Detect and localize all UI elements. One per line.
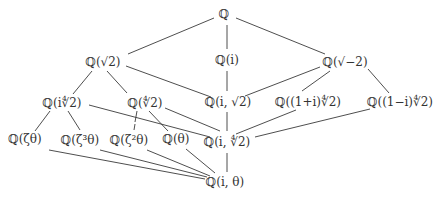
- field-node-Qi42: ℚ(i∜2): [43, 97, 82, 109]
- field-node-Qi42b: ℚ(i, ∜2): [204, 136, 251, 148]
- edge-line: [35, 111, 50, 131]
- edge-line: [245, 67, 320, 96]
- field-node-Q42: ℚ(∜2): [127, 97, 162, 109]
- field-node-Q1pi: ℚ((1+i)∜2): [275, 96, 341, 108]
- edge-line: [149, 111, 168, 131]
- edge-line: [100, 150, 207, 177]
- field-node-Qzt: ℚ(ζθ): [8, 133, 42, 145]
- edge-line: [302, 71, 330, 91]
- edge-line: [236, 110, 296, 134]
- edge-line: [255, 109, 370, 137]
- edge-line: [236, 18, 325, 54]
- field-node-Qz3t: ℚ(ζ³θ): [61, 134, 99, 146]
- edge-line: [135, 111, 137, 122]
- edge-line: [134, 124, 135, 130]
- edge-line: [147, 150, 210, 176]
- field-node-Qs2: ℚ(√2): [85, 56, 120, 68]
- field-node-Qt: ℚ(θ): [162, 133, 189, 145]
- edge-line: [128, 18, 214, 54]
- edge-line: [368, 69, 389, 93]
- field-node-Q: ℚ: [219, 8, 229, 20]
- field-node-Qz2t: ℚ(ζ²θ): [110, 134, 148, 146]
- edge-line: [107, 71, 127, 93]
- edge-line: [126, 66, 211, 97]
- field-node-Qi: ℚ(i): [215, 54, 239, 66]
- field-node-Qit: ℚ(i, θ): [206, 176, 245, 188]
- edge-line: [73, 71, 92, 94]
- field-node-Q1mi: ℚ((1−i)∜2): [367, 96, 433, 108]
- edge-line: [68, 111, 80, 130]
- field-node-Qis2: ℚ(i, √2): [205, 96, 252, 108]
- edge-line: [186, 149, 215, 173]
- field-node-Qsm2: ℚ(√−2): [322, 56, 367, 68]
